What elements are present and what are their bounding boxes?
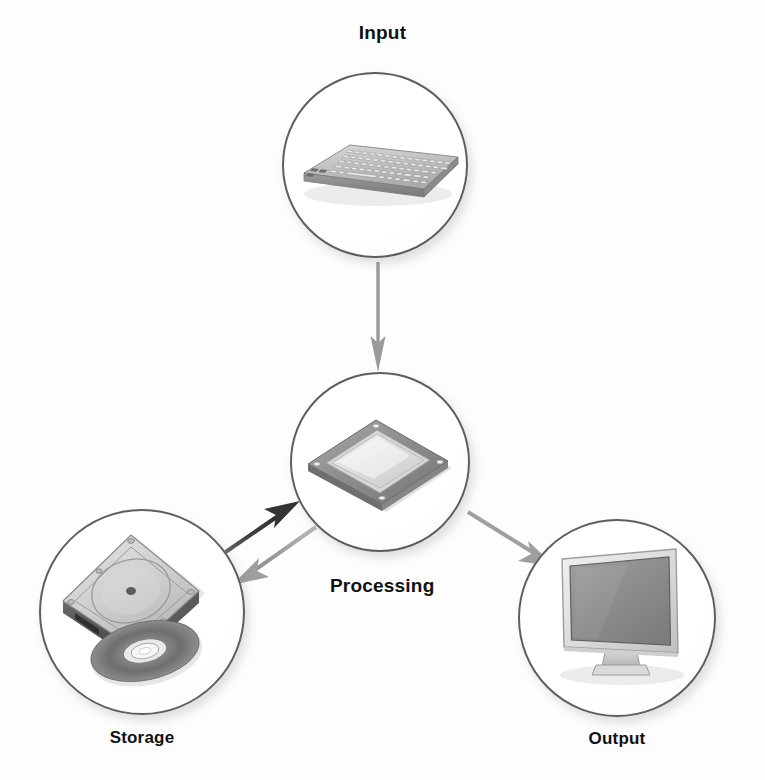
node-output[interactable]	[518, 519, 716, 717]
node-processing-label: Processing	[330, 575, 434, 597]
arrow-input-to-processing	[371, 262, 386, 372]
information-processing-cycle-diagram: Input	[0, 0, 765, 780]
node-storage[interactable]	[39, 509, 245, 715]
node-input-label: Input	[0, 22, 765, 44]
node-output-label: Output	[518, 729, 716, 749]
keyboard-icon	[282, 72, 468, 258]
node-processing[interactable]	[290, 372, 470, 552]
cpu-chip-icon	[290, 372, 470, 552]
monitor-icon	[518, 519, 716, 717]
hard-disk-and-optical-disc-icon	[39, 509, 245, 715]
node-storage-label: Storage	[39, 728, 245, 748]
node-input[interactable]	[282, 72, 468, 258]
